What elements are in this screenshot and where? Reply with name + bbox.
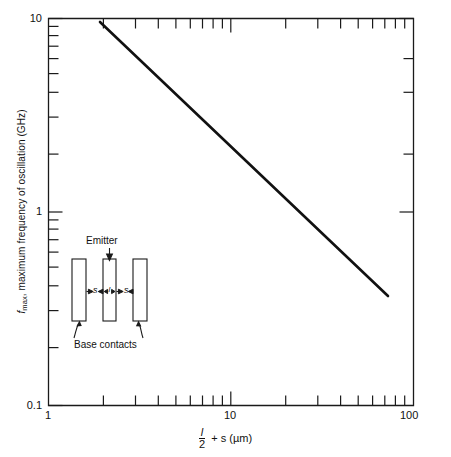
y-axis-label-symbol: f xyxy=(16,311,27,314)
x-axis-label: l 2 + s (µm) xyxy=(0,428,451,451)
y-axis-label-rest: , maximum frequency of oscillation (GHz) xyxy=(16,109,27,296)
x-tick-label-100: 100 xyxy=(400,409,418,421)
y-axis-ticks xyxy=(49,19,63,406)
inset-base-leader-lines xyxy=(74,323,143,338)
x-axis-label-fraction: l 2 xyxy=(199,427,205,450)
y-tick-label-0-1: 0.1 xyxy=(1,399,42,411)
inset-base-contact-left xyxy=(72,259,86,321)
inset-dim-label-s-right: s xyxy=(124,285,129,295)
y-axis-ticks-right xyxy=(400,19,414,213)
y-tick-label-10: 10 xyxy=(8,12,42,24)
x-tick-label-1: 1 xyxy=(45,409,51,421)
y-tick-label-1: 1 xyxy=(8,205,42,217)
inset-emitter-label: Emitter xyxy=(86,235,118,246)
x-axis-label-rest: + s (µm) xyxy=(211,432,252,444)
x-axis-ticks xyxy=(103,392,404,406)
inset-base-contacts-label: Base contacts xyxy=(74,339,137,350)
y-axis-label-subscript: max xyxy=(20,296,29,310)
x-axis-ticks-top xyxy=(103,19,404,33)
inset-dim-label-l-center: l xyxy=(109,285,111,294)
chart-svg xyxy=(0,0,451,457)
inset-base-contact-right xyxy=(133,259,147,321)
data-series-line xyxy=(100,22,388,296)
x-tick-label-10: 10 xyxy=(224,409,236,421)
log-log-chart-figure: fmax, maximum frequency of oscillation (… xyxy=(0,0,451,457)
inset-dim-label-s-left: s xyxy=(93,285,98,295)
x-axis-label-denominator: 2 xyxy=(199,439,205,450)
